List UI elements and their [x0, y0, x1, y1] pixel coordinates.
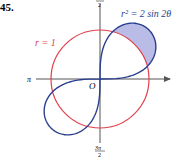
bottom-label-den: 2 [98, 152, 101, 157]
polar-diagram: 45. r = 1 r² = 2 sin 2θ O π π 2 3π 2 [0, 0, 187, 157]
bottom-label-num: 3π [94, 145, 102, 151]
curve-label: r² = 2 sin 2θ [121, 8, 171, 19]
top-label-den: 2 [98, 2, 101, 8]
circle-label: r = 1 [35, 37, 56, 48]
origin-label: O [89, 81, 96, 91]
problem-number: 45. [0, 1, 14, 13]
pi-label: π [27, 75, 32, 84]
